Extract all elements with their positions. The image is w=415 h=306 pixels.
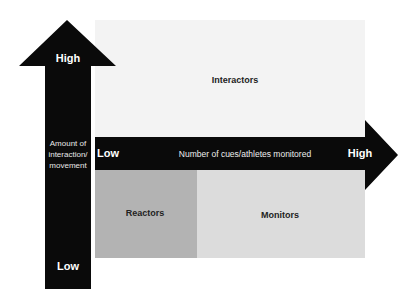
vertical-axis-title: Amount of interaction/ movement bbox=[44, 138, 92, 171]
vertical-axis-title-line1: Amount of bbox=[44, 138, 92, 149]
vertical-axis-title-line2: interaction/ bbox=[44, 149, 92, 160]
quadrant-diagram: Interactors Reactors Monitors High Amoun… bbox=[0, 0, 415, 306]
horizontal-axis-high-label: High bbox=[343, 147, 377, 159]
horizontal-axis-title: Number of cues/athletes monitored bbox=[160, 149, 330, 160]
reactors-label: Reactors bbox=[110, 208, 180, 218]
interactors-label: Interactors bbox=[200, 75, 270, 85]
monitors-label: Monitors bbox=[245, 210, 315, 220]
vertical-axis-low-label: Low bbox=[45, 260, 91, 272]
vertical-axis-title-line3: movement bbox=[44, 160, 92, 171]
vertical-axis-high-label: High bbox=[45, 52, 91, 64]
horizontal-axis-low-label: Low bbox=[97, 147, 127, 159]
